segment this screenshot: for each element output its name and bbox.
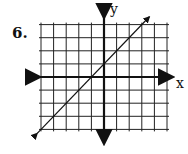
- coordinate-plane: x y: [0, 0, 188, 154]
- y-axis-label: y: [109, 1, 118, 17]
- x-axis-label: x: [176, 75, 184, 91]
